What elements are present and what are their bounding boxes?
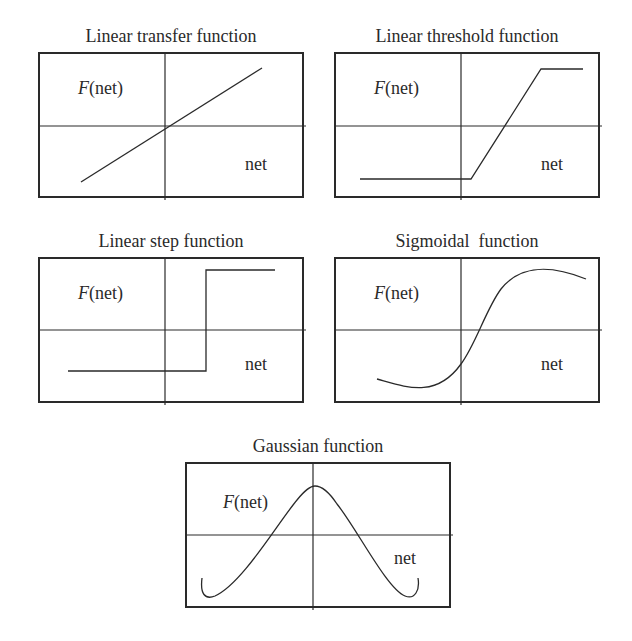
y-axis-label: F(net) (78, 78, 123, 99)
y-axis-label: F(net) (374, 78, 419, 99)
plot-area: F(net) net (334, 257, 600, 403)
x-axis-label: net (394, 548, 416, 569)
plot-svg (336, 259, 602, 405)
panel-title: Linear threshold function (334, 26, 600, 47)
panel-title: Gaussian function (185, 436, 451, 457)
x-axis-label: net (245, 354, 267, 375)
panel-title: Linear step function (38, 231, 304, 252)
x-axis-label: net (541, 354, 563, 375)
plot-area: F(net) net (185, 462, 451, 608)
x-axis-label: net (245, 154, 267, 175)
plot-area: F(net) net (38, 52, 304, 198)
panel-sigmoidal: Sigmoidal function F(net) net (334, 231, 600, 403)
panel-title: Linear transfer function (38, 26, 304, 47)
y-axis-label: F(net) (374, 283, 419, 304)
panel-linear-transfer: Linear transfer function F(net) net (38, 26, 304, 198)
panel-linear-step: Linear step function F(net) net (38, 231, 304, 403)
panel-gaussian: Gaussian function F(net) net (185, 436, 451, 608)
y-axis-label: F(net) (78, 283, 123, 304)
plot-svg (336, 54, 602, 200)
x-axis-label: net (541, 154, 563, 175)
plot-svg (187, 464, 453, 610)
plot-svg (40, 54, 306, 200)
plot-area: F(net) net (334, 52, 600, 198)
y-axis-label: F(net) (223, 492, 268, 513)
plot-area: F(net) net (38, 257, 304, 403)
plot-svg (40, 259, 306, 405)
panel-linear-threshold: Linear threshold function F(net) net (334, 26, 600, 198)
panel-title: Sigmoidal function (334, 231, 600, 252)
